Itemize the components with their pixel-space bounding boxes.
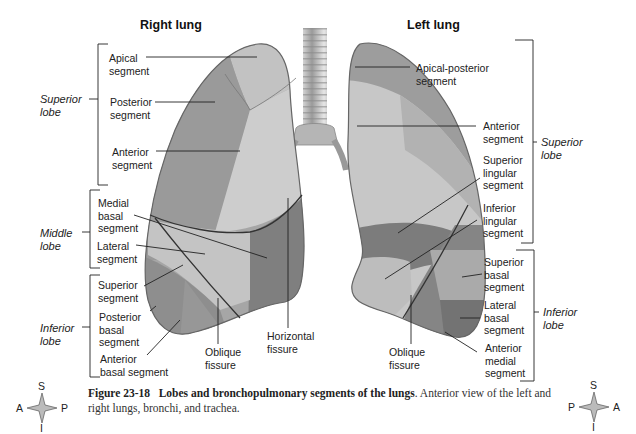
- compass-left-inferior: I: [40, 422, 43, 434]
- compass-left-icon: [27, 393, 57, 423]
- compass-right-anterior: A: [613, 401, 620, 413]
- figure-number: Figure 23-18: [88, 387, 150, 399]
- figure-caption: Figure 23-18 Lobes and bronchopulmonary …: [88, 386, 558, 416]
- right-apical-segment-label: Apicalsegment: [109, 52, 149, 77]
- left-inferior-lingular-segment-label: Inferiorlingularsegment: [483, 202, 523, 240]
- left-anterior-segment-label: Anteriorsegment: [483, 120, 523, 145]
- compass-right-superior: S: [590, 379, 597, 391]
- right-anterior-basal-segment-label: Anteriorbasal segment: [100, 353, 168, 378]
- compass-right-icon: [579, 392, 609, 422]
- right-medial-basal-segment-label: Medialbasalsegment: [98, 197, 138, 235]
- figure-title: Lobes and bronchopulmonary segments of t…: [159, 387, 415, 399]
- right-posterior-basal-segment-label: Posteriorbasalsegment: [99, 311, 141, 349]
- compass-right-inferior: I: [592, 421, 595, 433]
- right-inferior-lobe-label: Inferiorlobe: [40, 322, 74, 347]
- compass-right-posterior: P: [568, 401, 575, 413]
- right-oblique-fissure-label: Obliquefissure: [205, 346, 241, 371]
- right-lateral-segment-label: Lateralsegment: [97, 240, 137, 265]
- right-posterior-segment-label: Posteriorsegment: [110, 96, 152, 121]
- left-superior-lingular-segment-label: Superiorlingularsegment: [483, 154, 523, 192]
- left-oblique-fissure-label: Obliquefissure: [389, 346, 425, 371]
- right-lung-title: Right lung: [140, 18, 202, 32]
- right-middle-lobe-label: Middlelobe: [40, 227, 72, 252]
- left-lateral-basal-segment-label: Lateralbasalsegment: [484, 299, 524, 337]
- right-superior-lobe-label: Superiorlobe: [40, 93, 82, 118]
- left-lung-title: Left lung: [407, 18, 460, 32]
- left-superior-basal-segment-label: Superiorbasalsegment: [484, 256, 524, 294]
- right-superior-segment-label: Superiorsegment: [98, 279, 138, 304]
- left-apical-posterior-segment-label: Apical-posteriorsegment: [416, 62, 489, 87]
- compass-left-superior: S: [38, 380, 45, 392]
- compass-left-anterior: A: [16, 402, 23, 414]
- right-anterior-segment-label: Anteriorsegment: [112, 146, 152, 171]
- left-inferior-lobe-label: Inferiorlobe: [543, 306, 577, 331]
- compass-left-posterior: P: [61, 402, 68, 414]
- left-superior-lobe-label: Superiorlobe: [541, 136, 583, 161]
- right-horizontal-fissure-label: Horizontalfissure: [267, 330, 314, 355]
- left-anterior-medial-segment-label: Anteriormedialsegment: [485, 342, 525, 380]
- trachea: [303, 28, 327, 128]
- right-lung: [140, 40, 310, 340]
